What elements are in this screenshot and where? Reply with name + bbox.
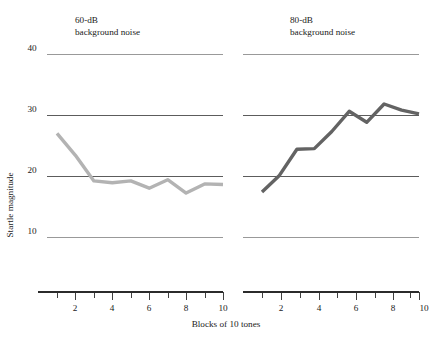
panel-80db-title-line2: background noise	[290, 27, 355, 37]
x-tick-label-80db-6: 6	[354, 303, 359, 313]
x-tick-label-80db-10: 10	[419, 303, 429, 313]
panel-80db-title-line1: 80-dB	[290, 15, 313, 25]
x-tick-label-60db-4: 4	[110, 303, 115, 313]
x-tick-label-80db-8: 8	[391, 303, 396, 313]
chart-canvas: 60-dB background noise 40 30 20 10	[0, 0, 442, 340]
startle-magnitude-figure: 60-dB background noise 40 30 20 10	[0, 0, 442, 340]
y-tick-label-20: 20	[27, 165, 37, 175]
panel-60db: 60-dB background noise 40 30 20 10	[27, 15, 228, 313]
panel-80db: 80-dB background noise 2 4 6 8	[243, 15, 429, 313]
x-tick-label-60db-10: 10	[218, 303, 228, 313]
panel-60db-title-line1: 60-dB	[75, 15, 98, 25]
y-tick-label-10: 10	[27, 226, 37, 236]
y-axis-title: Startle magnitude	[5, 172, 15, 237]
x-axis-title: Blocks of 10 tones	[192, 319, 261, 329]
panel-60db-title-line2: background noise	[75, 27, 140, 37]
x-tick-label-80db-2: 2	[279, 303, 284, 313]
series-line-80db	[262, 104, 419, 192]
x-tick-label-60db-8: 8	[184, 303, 189, 313]
x-tick-label-80db-4: 4	[317, 303, 322, 313]
x-tick-label-60db-2: 2	[73, 303, 78, 313]
x-tick-label-60db-6: 6	[147, 303, 152, 313]
y-tick-label-30: 30	[27, 104, 37, 114]
y-tick-label-40: 40	[27, 43, 37, 53]
series-line-60db	[57, 133, 223, 193]
